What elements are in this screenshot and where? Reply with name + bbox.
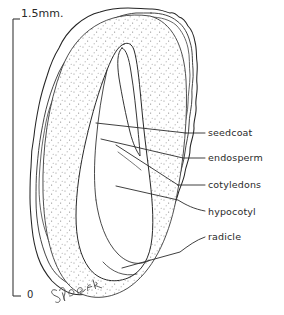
scale-bar-top-label: 1.5mm. [21,8,63,19]
label-hypocotyl: hypocotyl [208,207,256,217]
scale-bar-bottom-label: 0 [27,290,33,300]
label-radicle: radicle [208,232,241,242]
label-endosperm: endosperm [208,153,263,163]
label-cotyledons: cotyledons [208,180,261,190]
label-seedcoat: seedcoat [208,128,252,138]
scale-bar [13,19,21,296]
